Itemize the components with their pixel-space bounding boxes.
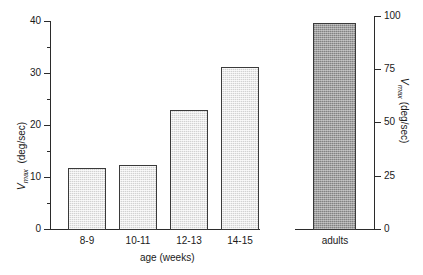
right-y-tick-label-25: 25 — [384, 171, 395, 181]
left-y-tick-20 — [44, 125, 50, 126]
bar-adults[interactable] — [313, 23, 356, 230]
x-category-label-14-15: 14-15 — [215, 236, 265, 246]
left-y-minor-tick-15 — [47, 151, 50, 152]
right-y-tick-50 — [375, 122, 381, 123]
x-category-label-10-11: 10-11 — [113, 236, 163, 246]
left-y-tick-0 — [44, 229, 50, 230]
left-y-tick-10 — [44, 177, 50, 178]
left-y-tick-label-30: 30 — [24, 68, 41, 78]
right-y-tick-label-75: 75 — [384, 64, 395, 74]
right-y-tick-label-0: 0 — [384, 224, 390, 234]
left-y-tick-label-40: 40 — [24, 16, 41, 26]
left-y-axis-title-unit: (deg/sec) — [16, 122, 27, 164]
bar-12-13[interactable] — [170, 110, 208, 230]
right-y-axis-title-symbol: Vmax — [399, 78, 410, 99]
right-y-tick-label-100: 100 — [384, 11, 401, 21]
right-y-tick-25 — [375, 176, 381, 177]
right-y-tick-100 — [375, 16, 381, 17]
right-y-axis-title-unit: (deg/sec) — [399, 102, 410, 144]
left-y-axis-title: Vmax (deg/sec) — [16, 122, 31, 190]
left-y-axis-title-symbol: Vmax — [16, 169, 27, 190]
right-y-axis-line — [374, 16, 375, 230]
x-category-label-8-9: 8-9 — [62, 236, 112, 246]
x-category-label-12-13: 12-13 — [164, 236, 214, 246]
bar-chart-figure: 40 30 20 10 0 Vmax (deg/sec) 8-9 10-11 1… — [0, 0, 423, 275]
right-y-tick-label-50: 50 — [384, 117, 395, 127]
x-category-label-adults: adults — [309, 236, 361, 246]
left-y-axis-line — [50, 21, 51, 230]
right-y-axis-title: Vmax (deg/sec) — [395, 78, 410, 143]
left-y-tick-40 — [44, 21, 50, 22]
right-y-tick-0 — [375, 229, 381, 230]
bar-8-9[interactable] — [68, 168, 106, 230]
left-y-minor-tick-35 — [47, 47, 50, 48]
x-axis-title: age (weeks) — [140, 252, 194, 263]
left-y-tick-label-0: 0 — [24, 224, 41, 234]
left-y-tick-30 — [44, 73, 50, 74]
right-y-tick-75 — [375, 69, 381, 70]
left-y-minor-tick-5 — [47, 203, 50, 204]
bar-14-15[interactable] — [221, 67, 259, 230]
bar-10-11[interactable] — [119, 165, 157, 231]
left-y-minor-tick-25 — [47, 99, 50, 100]
